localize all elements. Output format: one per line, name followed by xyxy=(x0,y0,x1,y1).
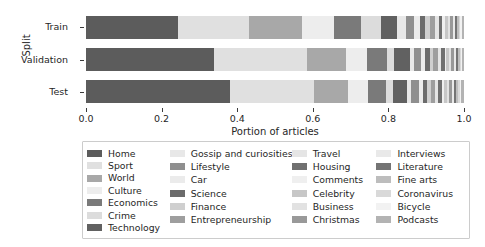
legend-label: Crime xyxy=(108,211,136,220)
bar-segment xyxy=(406,16,414,39)
x-tick-mark xyxy=(464,108,465,112)
legend-item-science[interactable]: Science xyxy=(170,187,292,200)
legend-item-sport[interactable]: Sport xyxy=(87,159,170,171)
bar-segment xyxy=(348,80,368,103)
legend-item-economics[interactable]: Economics xyxy=(87,197,170,209)
legend: HomeSportWorldCultureEconomicsCrimeTechn… xyxy=(82,141,470,239)
x-axis-title: Portion of articles xyxy=(86,126,464,137)
legend-swatch-icon xyxy=(87,162,102,169)
legend-label: Science xyxy=(191,189,227,198)
bar-segment xyxy=(368,80,386,103)
legend-label: Gossip and curiosities xyxy=(191,149,293,158)
legend-item-gossip-and-curiosities[interactable]: Gossip and curiosities xyxy=(170,147,292,160)
legend-item-literature[interactable]: Literature xyxy=(376,160,465,173)
y-axis-tick-labels: TrainValidationTest xyxy=(0,11,80,108)
legend-swatch-icon xyxy=(170,176,185,183)
legend-item-car[interactable]: Car xyxy=(170,173,292,186)
legend-label: Celebrity xyxy=(313,189,355,198)
bar-segment xyxy=(381,16,397,39)
x-tick-label-0.8: 0.8 xyxy=(381,113,396,124)
legend-label: Lifestyle xyxy=(191,162,230,171)
legend-swatch-icon xyxy=(376,216,391,223)
legend-item-finance[interactable]: Finance xyxy=(170,200,292,213)
stacked-bar-chart-figure: Split TrainValidationTest Portion of art… xyxy=(0,0,485,247)
legend-label: Home xyxy=(108,149,135,158)
legend-item-business[interactable]: Business xyxy=(292,200,377,213)
legend-swatch-icon xyxy=(292,203,307,210)
legend-swatch-icon xyxy=(292,216,307,223)
legend-label: Finance xyxy=(191,202,227,211)
legend-swatch-icon xyxy=(87,150,102,157)
y-tick-label-validation: Validation xyxy=(21,55,68,65)
legend-item-bicycle[interactable]: Bicycle xyxy=(376,200,465,213)
legend-swatch-icon xyxy=(376,203,391,210)
legend-item-interviews[interactable]: Interviews xyxy=(376,147,465,160)
legend-column-2: Gossip and curiositiesLifestyleCarScienc… xyxy=(170,147,292,234)
stacked-bar-validation xyxy=(86,48,464,71)
y-tick-mark xyxy=(80,60,84,61)
legend-label: Comments xyxy=(313,175,363,184)
legend-item-housing[interactable]: Housing xyxy=(292,160,377,173)
legend-swatch-icon xyxy=(292,163,307,170)
legend-swatch-icon xyxy=(170,216,185,223)
x-tick-label-0.0: 0.0 xyxy=(78,113,93,124)
legend-label: Interviews xyxy=(397,149,445,158)
legend-swatch-icon xyxy=(87,175,102,182)
legend-swatch-icon xyxy=(376,150,391,157)
stacked-bar-test xyxy=(86,80,464,103)
legend-label: Coronavirus xyxy=(397,189,453,198)
legend-label: Technology xyxy=(108,223,160,232)
legend-swatch-icon xyxy=(170,150,185,157)
legend-label: Sport xyxy=(108,161,133,170)
legend-label: World xyxy=(108,173,135,182)
legend-item-lifestyle[interactable]: Lifestyle xyxy=(170,160,292,173)
legend-label: Entrepreneurship xyxy=(191,215,272,224)
x-tick-mark xyxy=(86,108,87,112)
legend-item-coronavirus[interactable]: Coronavirus xyxy=(376,187,465,200)
legend-item-technology[interactable]: Technology xyxy=(87,222,170,234)
bar-segment xyxy=(394,48,410,71)
x-tick-label-1.0: 1.0 xyxy=(456,113,471,124)
bar-segment xyxy=(462,48,464,71)
bar-segment xyxy=(249,16,303,39)
bar-segment xyxy=(302,16,334,39)
legend-item-entrepreneurship[interactable]: Entrepreneurship xyxy=(170,213,292,226)
bar-segment xyxy=(361,16,381,39)
legend-swatch-icon xyxy=(376,190,391,197)
bar-segment xyxy=(86,48,214,71)
legend-label: Business xyxy=(313,202,354,211)
legend-item-home[interactable]: Home xyxy=(87,147,170,159)
legend-item-crime[interactable]: Crime xyxy=(87,209,170,221)
bar-segment xyxy=(86,80,230,103)
legend-item-travel[interactable]: Travel xyxy=(292,147,377,160)
bar-segment xyxy=(386,80,393,103)
bar-segment xyxy=(307,48,346,71)
legend-item-podcasts[interactable]: Podcasts xyxy=(376,213,465,226)
legend-item-celebrity[interactable]: Celebrity xyxy=(292,187,377,200)
plot-area xyxy=(86,11,464,108)
bar-segment xyxy=(214,48,307,71)
legend-item-culture[interactable]: Culture xyxy=(87,184,170,196)
legend-item-comments[interactable]: Comments xyxy=(292,173,377,186)
x-tick-mark xyxy=(237,108,238,112)
bar-segment xyxy=(397,16,405,39)
legend-swatch-icon xyxy=(170,163,185,170)
x-tick-label-0.2: 0.2 xyxy=(154,113,169,124)
bar-segment xyxy=(462,16,464,39)
bar-segment xyxy=(411,80,418,103)
legend-item-christmas[interactable]: Christmas xyxy=(292,213,377,226)
legend-swatch-icon xyxy=(292,150,307,157)
legend-item-fine-arts[interactable]: Fine arts xyxy=(376,173,465,186)
legend-swatch-icon xyxy=(292,176,307,183)
bar-segment xyxy=(387,48,394,71)
legend-label: Travel xyxy=(313,149,341,158)
legend-swatch-icon xyxy=(87,224,102,231)
bar-segment xyxy=(86,16,178,39)
legend-label: Podcasts xyxy=(397,215,438,224)
x-tick-mark xyxy=(162,108,163,112)
bar-segment xyxy=(346,48,367,71)
x-axis: Portion of articles 0.00.20.40.60.81.0 xyxy=(86,108,464,142)
legend-swatch-icon xyxy=(87,187,102,194)
legend-item-world[interactable]: World xyxy=(87,172,170,184)
legend-swatch-icon xyxy=(87,212,102,219)
